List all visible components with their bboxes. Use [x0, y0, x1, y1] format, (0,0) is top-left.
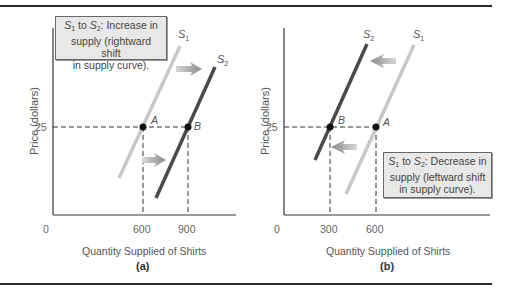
- x-axis-label: Quantity Supplied of Shirts: [82, 245, 206, 257]
- point-a: [140, 124, 147, 131]
- point-label-a: A: [151, 114, 158, 126]
- x-tick-0: 0: [274, 223, 280, 235]
- x-tick-0: 0: [43, 223, 49, 235]
- x-tick-900: 900: [178, 223, 196, 235]
- annotation-box-increase: S1 to S2: Increase in supply (rightward …: [55, 16, 167, 60]
- point-b: [185, 124, 192, 131]
- point-label-b: B: [338, 114, 345, 126]
- x-tick-300: 300: [320, 223, 338, 235]
- left-arrow-icon: [331, 140, 357, 154]
- annotation-box-decrease: S1 to S2: Decrease in supply (leftward s…: [383, 152, 492, 198]
- panel-label-b: (b): [380, 260, 394, 272]
- curve-label-s2: S2: [363, 28, 374, 42]
- y-axis-label: Price (dollars): [259, 87, 271, 155]
- supply-curve-s2: [156, 67, 215, 198]
- curve-label-s2: S2: [217, 53, 228, 67]
- curve-label-s1: S1: [413, 28, 424, 42]
- right-arrow-icon: [142, 153, 166, 167]
- x-axis-label: Quantity Supplied of Shirts: [326, 245, 450, 257]
- y-axis-label: Price (dollars): [28, 87, 40, 155]
- point-a: [373, 124, 380, 131]
- x-tick-600: 600: [133, 223, 151, 235]
- point-b: [327, 124, 334, 131]
- left-arrow-icon: [370, 54, 396, 68]
- x-tick-600: 600: [366, 223, 384, 235]
- panel-label-a: (a): [136, 260, 149, 272]
- curve-label-s1: S1: [178, 28, 189, 42]
- right-arrow-icon: [176, 62, 202, 76]
- point-label-b: B: [194, 120, 201, 132]
- point-label-a: A: [383, 116, 390, 128]
